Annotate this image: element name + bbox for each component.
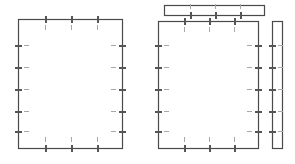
technical-drawing-canvas xyxy=(0,0,295,164)
left-panel-outline xyxy=(19,20,123,149)
side-rail xyxy=(269,22,284,149)
left-panel xyxy=(15,16,126,152)
right-panel-outline xyxy=(159,22,259,149)
top-rail xyxy=(165,4,265,19)
panel-layout-drawing xyxy=(0,0,295,164)
side-rail-outline xyxy=(273,22,283,149)
right-panel xyxy=(155,18,262,152)
